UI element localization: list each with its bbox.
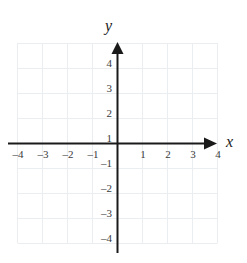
x-tick-label: –3 <box>36 149 50 160</box>
y-tick-label: –4 <box>96 233 112 244</box>
x-axis-label: x <box>226 134 233 150</box>
y-tick-label: 3 <box>99 83 112 94</box>
coordinate-grid-svg <box>0 0 247 263</box>
y-axis-label: y <box>105 18 112 34</box>
y-tick-label: –1 <box>96 158 112 169</box>
x-tick-label: 3 <box>186 149 200 160</box>
plot-background <box>0 0 247 263</box>
x-tick-label: –2 <box>61 149 75 160</box>
x-tick-label: 1 <box>136 149 150 160</box>
coordinate-plane-figure: –4 –3 –2 –1 1 2 3 4 4 3 2 1 –1 –2 –3 –4 … <box>0 0 247 263</box>
x-tick-label: 4 <box>211 149 225 160</box>
y-tick-label: –2 <box>96 183 112 194</box>
x-tick-label: –4 <box>11 149 25 160</box>
y-tick-label: 2 <box>99 108 112 119</box>
y-tick-label: 4 <box>99 58 112 69</box>
x-tick-label: 2 <box>161 149 175 160</box>
y-tick-label: –3 <box>96 208 112 219</box>
y-tick-label: 1 <box>99 133 112 144</box>
